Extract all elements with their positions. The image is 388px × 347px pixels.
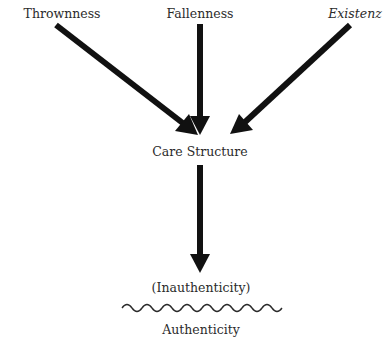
arrow-fallenness-to-care bbox=[190, 24, 210, 135]
node-fallenness: Fallenness bbox=[167, 8, 234, 21]
node-existenz: Existenz bbox=[328, 8, 382, 21]
diagram: Thrownness Fallenness Existenz Care Stru… bbox=[0, 0, 388, 347]
node-inauthenticity: (Inauthenticity) bbox=[152, 282, 251, 295]
node-care-structure: Care Structure bbox=[152, 146, 247, 159]
wavy-separator-line bbox=[122, 305, 282, 312]
arrow-existenz-to-care bbox=[230, 25, 350, 134]
arrow-thrownness-to-care bbox=[56, 25, 198, 135]
node-thrownness: Thrownness bbox=[24, 8, 101, 21]
arrow-care-to-inauthenticity bbox=[190, 165, 210, 273]
node-authenticity: Authenticity bbox=[162, 324, 240, 337]
